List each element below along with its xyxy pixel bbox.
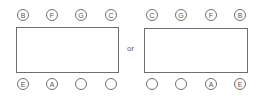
seat-top-1: C — [146, 9, 158, 21]
table-rectangle — [144, 28, 248, 73]
seat-top-3: F — [205, 9, 217, 21]
seat-top-2: G — [175, 9, 187, 21]
seat-bottom-2 — [175, 78, 187, 90]
seat-bottom-3: A — [205, 78, 217, 90]
seat-bottom-4: E — [234, 78, 246, 90]
seat-top-4: B — [234, 9, 246, 21]
seat-bottom-1 — [146, 78, 158, 90]
arrangement-2: C G F B A E — [0, 0, 132, 98]
